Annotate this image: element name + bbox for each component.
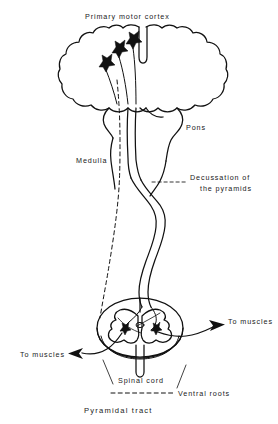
ventral-roots-tick-line [177, 365, 186, 388]
pyramid-left-border [127, 108, 131, 178]
to-muscles-right-label: To muscles [228, 317, 273, 326]
medulla-left-contour [111, 138, 115, 189]
spinal-cord-rim-highlight [101, 336, 179, 359]
corticospinal-tract-lateral-outer [141, 180, 165, 307]
ventral-roots-label: Ventral roots [178, 389, 230, 398]
pyramid-medial-border [135, 108, 141, 180]
axon-neuron-2 [119, 57, 128, 104]
pyramidal-neuron-1 [99, 54, 115, 72]
axon-neuron-1 [106, 70, 117, 104]
pyramidal-neuron-group [99, 31, 142, 72]
primary-motor-cortex-label: Primary motor cortex [85, 12, 170, 21]
decussation-label-line2: the pyramids [200, 184, 252, 193]
to-muscles-left-label: To muscles [20, 350, 65, 359]
ventral-median-fissure [136, 345, 144, 377]
decussation-label-line1: Decussation of [190, 173, 250, 182]
pyramidal-tract-diagram: Primary motor cortex Pons Medulla Decuss… [0, 0, 278, 424]
longitudinal-fissure [139, 27, 147, 63]
medulla-right-contour [150, 161, 166, 196]
axon-neuron-3 [133, 48, 136, 104]
arrowhead-right [209, 320, 225, 331]
pyramidal-neuron-2 [112, 40, 128, 58]
pons-right-contour [166, 108, 183, 161]
arrowhead-left [68, 348, 83, 359]
medulla-label: Medulla [76, 156, 107, 165]
spinal-cord-label: Spinal cord [118, 376, 164, 385]
ventral-root-right-axon [158, 327, 213, 336]
right-hemisphere-outline [140, 25, 228, 112]
ventral-root-left-axon [82, 333, 122, 354]
pons-label: Pons [186, 123, 206, 132]
pons-left-contour [103, 108, 113, 138]
uncrossed-tract-dashed [100, 80, 120, 318]
corticospinal-tract-lateral-inner [131, 178, 156, 307]
spinal-cord-leader-line [103, 360, 113, 384]
figure-caption: Pyramidal tract [84, 406, 153, 415]
